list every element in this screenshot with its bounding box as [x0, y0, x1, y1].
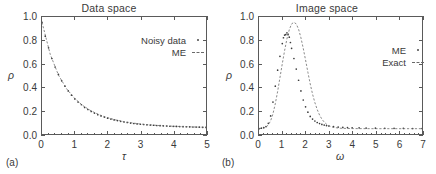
legend-item-me: ME [141, 46, 204, 58]
x-minor-tick [187, 133, 188, 136]
x-tick-mark [282, 16, 283, 20]
x-minor-tick [371, 133, 372, 136]
x-tick-label: 6 [397, 139, 403, 150]
data-point [421, 128, 422, 130]
data-point [293, 58, 295, 60]
x-tick-label: 1 [71, 139, 77, 150]
y-tick-label: 0.6 [5, 58, 37, 69]
y-tick-mark [203, 87, 207, 88]
data-point [314, 120, 316, 122]
y-tick-label: 0.0 [5, 130, 37, 141]
x-minor-tick [291, 133, 292, 136]
x-tick-mark [74, 16, 75, 20]
data-point [316, 122, 318, 124]
x-minor-tick [366, 133, 367, 136]
panel-a-tag: (a) [6, 157, 18, 168]
y-tick-mark [203, 64, 207, 65]
x-minor-tick [348, 133, 349, 136]
x-tick-label: 2 [302, 139, 308, 150]
y-tick-mark [203, 135, 207, 136]
x-minor-tick [87, 133, 88, 136]
x-minor-tick [338, 133, 339, 136]
data-point [285, 34, 287, 36]
x-tick-mark [305, 131, 306, 135]
panel-a-y-axis-label: ρ [8, 69, 14, 81]
panel-a-x-axis-label: τ [122, 150, 126, 162]
x-tick-mark [207, 16, 208, 20]
data-point [279, 56, 281, 58]
x-tick-mark [423, 131, 424, 135]
y-tick-mark [258, 111, 262, 112]
x-tick-label: 4 [171, 139, 177, 150]
y-tick-label: 1.0 [5, 11, 37, 22]
x-tick-label: 3 [138, 139, 144, 150]
data-point [300, 90, 302, 92]
x-tick-mark [107, 131, 108, 135]
data-point [277, 69, 279, 71]
panel-b-plot-area [259, 17, 422, 134]
y-tick-mark [41, 111, 45, 112]
data-point [298, 79, 300, 81]
x-minor-tick [272, 133, 273, 136]
x-tick-label: 3 [326, 139, 332, 150]
data-point [286, 32, 288, 34]
x-minor-tick [409, 133, 410, 136]
x-minor-tick [134, 133, 135, 136]
legend-key-dashed-line [191, 46, 204, 58]
x-minor-tick [390, 133, 391, 136]
y-tick-mark [41, 40, 45, 41]
x-minor-tick [54, 133, 55, 136]
figure-two-panel-plot: Data space 012345 0.00.20.40.60.81.0 τ ρ… [0, 0, 436, 174]
data-point [291, 48, 293, 50]
data-point [319, 123, 321, 125]
x-minor-tick [362, 133, 363, 136]
data-point [342, 127, 344, 129]
x-minor-tick [267, 133, 268, 136]
y-tick-label: 0.4 [222, 82, 254, 93]
data-point [305, 106, 307, 108]
panel-b-curves [259, 17, 422, 134]
x-tick-mark [74, 131, 75, 135]
x-minor-tick [343, 133, 344, 136]
legend-item-exact: Exact [382, 56, 424, 68]
x-minor-tick [81, 133, 82, 136]
data-point [288, 36, 290, 38]
x-tick-label: 0 [255, 139, 261, 150]
data-point [283, 37, 285, 39]
x-tick-mark [423, 16, 424, 20]
x-minor-tick [324, 133, 325, 136]
x-minor-tick [48, 133, 49, 136]
data-point [281, 43, 283, 45]
y-tick-mark [419, 16, 423, 17]
y-tick-label: 0.6 [222, 58, 254, 69]
legend-label-exact: Exact [382, 57, 406, 68]
data-point [176, 126, 178, 128]
x-minor-tick [333, 133, 334, 136]
x-tick-mark [329, 131, 330, 135]
data-point [323, 124, 325, 126]
x-minor-tick [121, 133, 122, 136]
legend-key-dot-marker [411, 44, 424, 56]
legend-key-dashed-line [411, 56, 424, 68]
x-minor-tick [300, 133, 301, 136]
panel-a-data-space: Data space 012345 0.00.20.40.60.81.0 τ ρ… [0, 0, 218, 174]
x-tick-mark [174, 131, 175, 135]
x-minor-tick [167, 133, 168, 136]
x-minor-tick [296, 133, 297, 136]
y-tick-label: 0.8 [5, 34, 37, 45]
x-tick-label: 0 [38, 139, 44, 150]
data-point [136, 123, 138, 125]
x-minor-tick [385, 133, 386, 136]
y-tick-mark [419, 135, 423, 136]
x-minor-tick [263, 133, 264, 136]
y-tick-label: 0.8 [222, 34, 254, 45]
y-tick-label: 0.2 [222, 106, 254, 117]
legend-label-noisy-data: Noisy data [141, 35, 186, 46]
x-tick-mark [305, 16, 306, 20]
x-minor-tick [61, 133, 62, 136]
data-point [156, 125, 158, 127]
y-tick-label: 0.2 [5, 106, 37, 117]
x-minor-tick [114, 133, 115, 136]
x-minor-tick [404, 133, 405, 136]
x-minor-tick [101, 133, 102, 136]
